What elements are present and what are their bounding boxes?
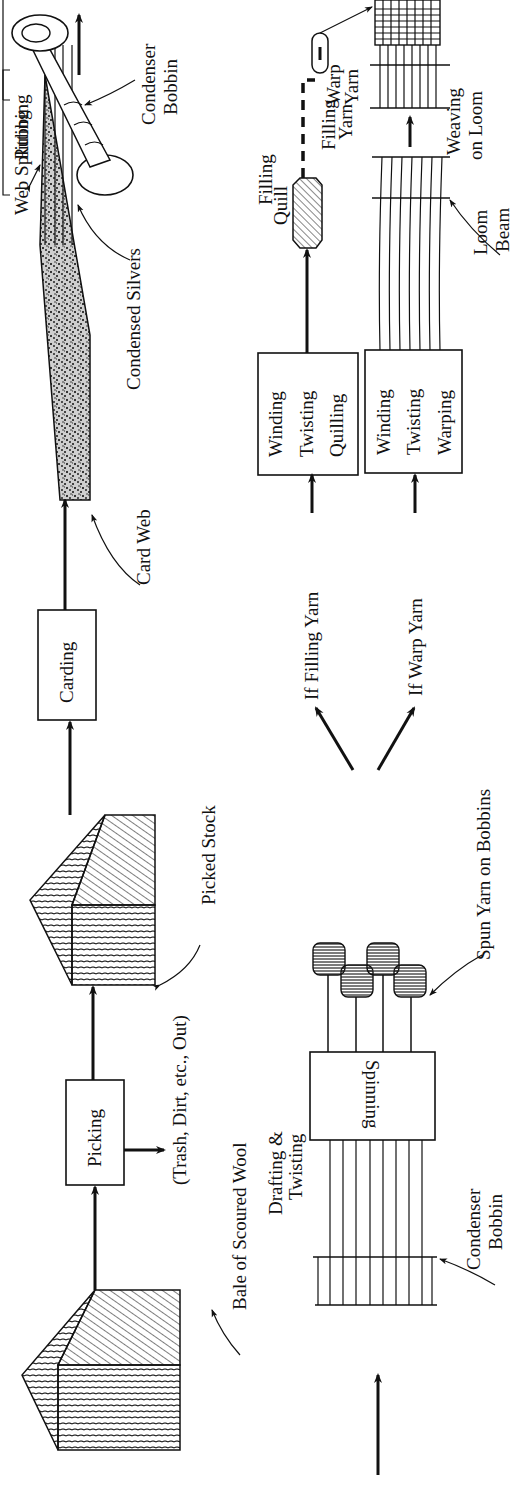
spun-yarn-label: Spun Yarn on Bobbins xyxy=(473,789,494,960)
card-web-label: Card Web xyxy=(133,509,154,585)
loom-beam-spool xyxy=(372,157,450,350)
wtq-label-3: Quilling xyxy=(326,393,347,457)
condenser-bobbin-bottom-label-1: Condenser xyxy=(463,1188,484,1270)
spun-yarn-bobbins-icon xyxy=(313,943,426,1052)
wtq-label-2: Twisting xyxy=(296,390,317,457)
drafting-label-1: Drafting & xyxy=(265,1131,286,1215)
filling-quill-icon xyxy=(293,178,322,248)
condenser-bobbin-top-label-1: Condenser xyxy=(138,43,159,125)
branch-arrow-warp xyxy=(378,708,414,770)
picking-label: Picking xyxy=(84,1108,105,1167)
wtw-label-2: Twisting xyxy=(403,388,424,455)
bale-label: Bale of Scoured Wool xyxy=(229,1142,250,1310)
if-warp-label: If Warp Yarn xyxy=(405,598,426,696)
wtw-label-3: Warping xyxy=(434,390,455,455)
carding-label: Carding xyxy=(56,641,77,703)
rubbing-label: Rubbing xyxy=(11,94,32,160)
loom-label-2: Beam xyxy=(492,207,513,252)
quill-label-2-visible: Quill xyxy=(270,186,291,225)
wtq-label-1: Winding xyxy=(265,391,286,457)
drafting-label-2: Twisting xyxy=(285,1133,306,1200)
web-splitting-bracket xyxy=(3,70,10,195)
woven-fabric-grid xyxy=(375,0,440,45)
filling-yarn-label-2: Yarn xyxy=(335,103,356,140)
warp-label-2: Yarn xyxy=(341,68,362,105)
wool-processing-diagram: Bale of Scoured Wool Picking (Trash, Dir… xyxy=(0,0,517,1485)
loom-label-1: Loom xyxy=(470,209,491,255)
picked-stock-icon xyxy=(30,815,155,985)
picked-stock-label: Picked Stock xyxy=(198,805,219,905)
weaving-label-2: on Loom xyxy=(465,91,486,160)
spinning-label: Spinning xyxy=(362,1060,383,1129)
if-filling-label: If Filling Yarn xyxy=(301,591,322,700)
condensed-silvers-label: Condensed Silvers xyxy=(123,248,144,390)
condenser-bobbin-bottom-label-2: Bobbin xyxy=(485,1194,506,1250)
weaving-label-1-visible: Weaving xyxy=(443,87,464,155)
condenser-bobbin-spool xyxy=(313,1140,437,1305)
condenser-bobbin-top-label-2: Bobbin xyxy=(160,59,181,115)
wtw-label-1: Winding xyxy=(373,389,394,455)
trash-label: (Trash, Dirt, etc., Out) xyxy=(169,1015,191,1185)
branch-arrow-filling xyxy=(316,708,353,770)
bale-of-wool-icon xyxy=(22,1290,180,1450)
